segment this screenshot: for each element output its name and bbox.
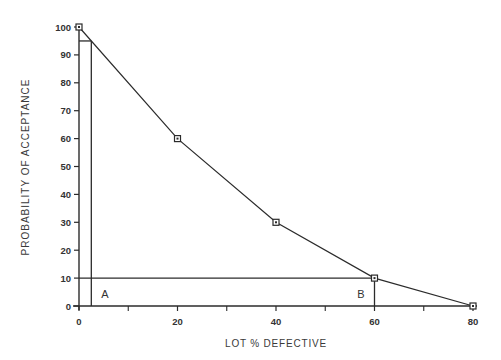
data-point-center <box>472 305 474 307</box>
annotation-a: A <box>101 288 109 300</box>
y-axis-label: PROBABILITY OF ACCEPTANCE <box>20 79 31 256</box>
oc-curve <box>76 24 476 309</box>
axes: 0102030405060708090100020406080 <box>55 22 478 328</box>
data-point-center <box>177 138 179 140</box>
oc-chart: 0102030405060708090100020406080 AB <box>0 0 501 360</box>
y-tick-label: 90 <box>60 49 71 60</box>
data-point-center <box>78 26 80 28</box>
y-tick-label: 20 <box>60 245 71 256</box>
y-tick-label: 10 <box>60 273 71 284</box>
y-tick-label: 30 <box>60 217 71 228</box>
annotation-b: B <box>357 288 364 300</box>
y-tick-label: 70 <box>60 105 71 116</box>
y-tick-label: 0 <box>66 301 71 312</box>
x-tick-label: 20 <box>172 316 183 327</box>
y-tick-label: 100 <box>55 22 71 33</box>
oc-curve-line <box>79 27 473 306</box>
x-tick-label: 40 <box>271 316 282 327</box>
data-point-center <box>275 221 277 223</box>
annotations: AB <box>101 288 364 300</box>
x-axis-label: LOT % DEFECTIVE <box>225 338 327 349</box>
reference-lines <box>79 41 375 306</box>
y-tick-label: 50 <box>60 161 71 172</box>
y-tick-label: 40 <box>60 189 71 200</box>
x-tick-label: 80 <box>468 316 479 327</box>
x-tick-label: 0 <box>76 316 81 327</box>
x-tick-label: 60 <box>369 316 380 327</box>
data-point-center <box>374 277 376 279</box>
y-tick-label: 80 <box>60 77 71 88</box>
y-tick-label: 60 <box>60 133 71 144</box>
